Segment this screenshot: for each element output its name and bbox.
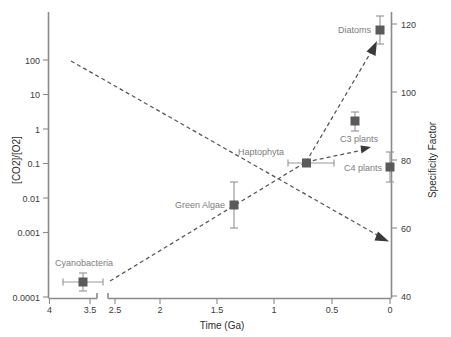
data-point-c4-plants[interactable]: C4 plants xyxy=(344,152,395,182)
arrowhead-icon xyxy=(375,232,390,242)
right-tick-label: 40 xyxy=(401,292,411,302)
chart-figure: 100 10 1 0.1 0.01 0.001 0.0001 40 60 80 … xyxy=(0,0,451,337)
trend-line-specificity-rise xyxy=(110,41,377,281)
data-point-haptophyta[interactable]: Haptophyta xyxy=(238,147,334,168)
x-tick-label: 2.5 xyxy=(109,305,122,315)
x-tick-label: 4 xyxy=(47,305,52,315)
marker-square xyxy=(302,159,311,168)
data-point-cyanobacteria[interactable]: Cyanobacteria xyxy=(55,258,113,291)
marker-square xyxy=(230,201,239,210)
point-label-diatoms: Diatoms xyxy=(338,25,372,35)
left-tick-label: 0.1 xyxy=(27,159,40,169)
right-tick-label: 100 xyxy=(401,88,416,98)
left-tick-label: 0.01 xyxy=(22,194,40,204)
x-tick-label: 3.5 xyxy=(84,305,97,315)
data-point-c3-plants[interactable]: C3 plants xyxy=(340,112,379,144)
right-tick-label: 80 xyxy=(401,156,411,166)
right-tick-label: 60 xyxy=(401,224,411,234)
trend-line-co2-o2-decline xyxy=(71,61,389,242)
x-tick-label: 1 xyxy=(271,305,276,315)
data-point-diatoms[interactable]: Diatoms xyxy=(338,16,385,44)
point-label-c4-plants: C4 plants xyxy=(344,163,383,173)
x-tick-label: 1.5 xyxy=(211,305,224,315)
left-tick-label: 100 xyxy=(25,56,40,66)
point-label-haptophyta: Haptophyta xyxy=(238,147,284,157)
arrowhead-icon xyxy=(367,41,378,56)
x-tick-label: 0.5 xyxy=(326,305,339,315)
x-axis-ticks xyxy=(50,299,391,305)
point-label-cyanobacteria: Cyanobacteria xyxy=(55,258,113,268)
chart-canvas: 100 10 1 0.1 0.01 0.001 0.0001 40 60 80 … xyxy=(0,0,451,337)
marker-square xyxy=(79,278,88,287)
x-axis-title: Time (Ga) xyxy=(200,320,245,331)
x-tick-label: 2 xyxy=(157,305,162,315)
trend-line-c4-branch xyxy=(306,146,371,163)
right-axis-tick-labels: 40 60 80 100 120 xyxy=(401,20,416,302)
arrowhead-icon xyxy=(361,146,372,154)
right-tick-label: 120 xyxy=(401,20,416,30)
point-label-c3-plants: C3 plants xyxy=(340,134,379,144)
marker-square xyxy=(376,26,385,35)
marker-square xyxy=(351,117,360,126)
x-axis-tick-labels: 4 3.5 2.5 2 1.5 1 0.5 0 xyxy=(47,305,393,315)
left-tick-label: 0.001 xyxy=(17,228,40,238)
left-tick-label: 0.0001 xyxy=(12,293,40,303)
point-label-green-algae: Green Algae xyxy=(175,200,225,210)
left-axis-ticks xyxy=(43,60,49,297)
marker-square xyxy=(386,163,395,172)
left-tick-label: 10 xyxy=(30,90,40,100)
left-tick-label: 1 xyxy=(35,125,40,135)
right-axis-ticks xyxy=(392,24,398,296)
y-axis-title-right: Specificity Factor xyxy=(427,121,438,198)
x-tick-label: 0 xyxy=(387,305,392,315)
data-point-green-algae[interactable]: Green Algae xyxy=(175,182,239,228)
bottom-axis xyxy=(49,293,392,299)
y-axis-title-left: [CO2]/[O2] xyxy=(11,136,22,184)
